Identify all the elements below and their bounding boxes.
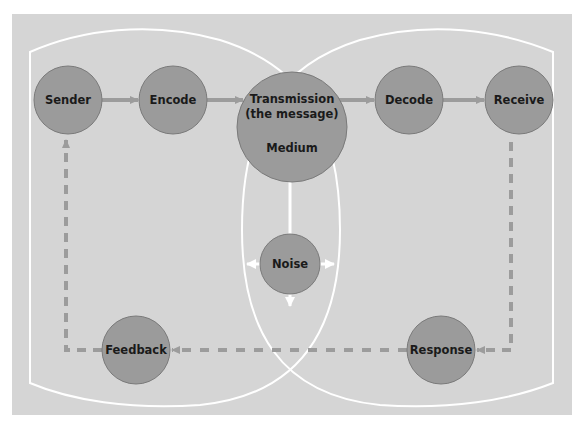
- node-sender-label: Sender: [45, 93, 91, 107]
- node-receive-label: Receive: [494, 93, 545, 107]
- node-transmission-label-2: (the message): [245, 107, 338, 121]
- node-response: Response: [407, 316, 475, 384]
- node-feedback-label: Feedback: [105, 343, 167, 357]
- node-sender: Sender: [34, 66, 102, 134]
- node-feedback: Feedback: [102, 316, 170, 384]
- arrow-receive-response: [477, 142, 511, 350]
- node-receive: Receive: [485, 66, 553, 134]
- node-encode-label: Encode: [150, 93, 197, 107]
- node-decode-label: Decode: [385, 93, 433, 107]
- arrow-feedback-sender: [66, 140, 102, 350]
- node-transmission-label-1: Transmission: [250, 92, 335, 106]
- node-decode: Decode: [375, 66, 443, 134]
- node-response-label: Response: [410, 343, 473, 357]
- node-encode: Encode: [139, 66, 207, 134]
- node-noise: Noise: [260, 234, 320, 294]
- communication-diagram: Sender Encode Transmission (the message)…: [0, 0, 581, 443]
- node-transmission: Transmission (the message) Medium: [237, 72, 347, 182]
- node-medium-label: Medium: [266, 141, 318, 155]
- node-noise-label: Noise: [272, 257, 308, 271]
